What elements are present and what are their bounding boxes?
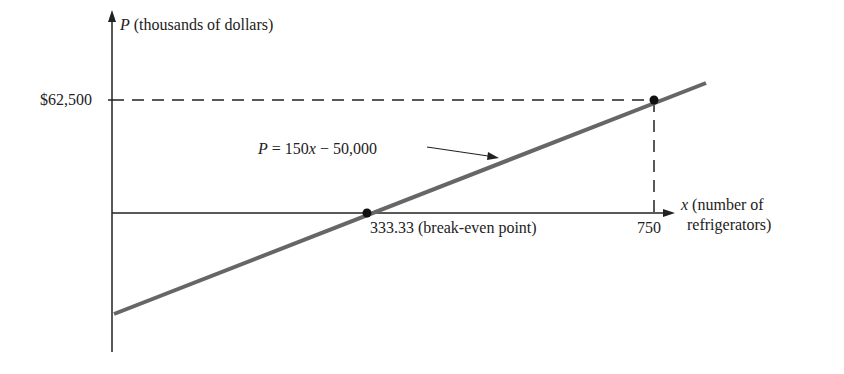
break-even-point: [363, 209, 372, 218]
profit-chart: P(thousands of dollars) $62,500 P = 150x…: [0, 0, 844, 374]
y-axis-label: P(thousands of dollars): [119, 16, 273, 34]
x-axis-arrow-icon: [663, 209, 675, 217]
y-axis-arrow-icon: [108, 10, 116, 22]
equation-label: P = 150x − 50,000: [257, 140, 377, 157]
x-tick-label: 750: [637, 219, 661, 236]
y-tick-label: $62,500: [40, 91, 92, 108]
profit-line: [114, 83, 706, 314]
equation-arrow-icon: [487, 152, 499, 160]
equation-pointer: [427, 147, 495, 157]
break-even-label: 333.33 (break-even point): [370, 219, 537, 237]
x-axis-label-line2: refrigerators): [687, 216, 771, 234]
point-750: [650, 96, 659, 105]
x-axis-label-line1: x(number of: [680, 196, 764, 214]
